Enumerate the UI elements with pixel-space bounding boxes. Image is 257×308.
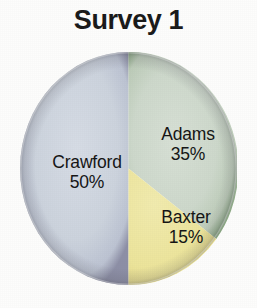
pie-label-adams: Adams 35% [140, 124, 236, 164]
pie-label-baxter-value: 15% [138, 227, 234, 247]
pie-label-crawford-value: 50% [26, 172, 148, 192]
pie-label-crawford-name: Crawford [52, 152, 121, 172]
chart-title: Survey 1 [0, 4, 257, 36]
pie-label-baxter-name: Baxter [161, 207, 210, 227]
pie-label-adams-name: Adams [161, 124, 214, 144]
pie-label-crawford: Crawford 50% [26, 152, 148, 192]
pie-label-baxter: Baxter 15% [138, 207, 234, 247]
pie-label-adams-value: 35% [140, 144, 236, 164]
pie-chart: Crawford 50% Adams 35% Baxter 15% [20, 52, 237, 285]
